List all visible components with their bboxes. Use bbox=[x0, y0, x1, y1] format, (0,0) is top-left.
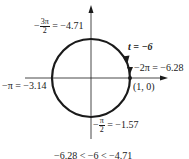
label-neg-pi-over-2: −π2 = −1.57 bbox=[93, 117, 138, 134]
denominator: 2 bbox=[40, 27, 50, 35]
label-neg-pi: −π = −3.14 bbox=[2, 81, 46, 91]
denominator: 2 bbox=[99, 126, 105, 134]
point-label: (1, 0) bbox=[133, 82, 155, 92]
label-neg-3pi-over-2: −3π2 = −4.71 bbox=[34, 18, 83, 35]
x-axis-arrow-icon bbox=[160, 76, 168, 81]
inequality: −6.28 < −6 < −4.71 bbox=[54, 151, 132, 159]
direction-arrow-icon bbox=[127, 67, 133, 74]
label-value: = −1.57 bbox=[107, 119, 138, 130]
y-axis-arrow-icon bbox=[89, 5, 94, 13]
label-neg-2pi: −2π = −6.28 bbox=[134, 63, 183, 73]
fraction: π2 bbox=[99, 117, 105, 134]
point-dot bbox=[128, 76, 132, 80]
label-value: = −4.71 bbox=[52, 20, 83, 31]
fraction: 3π2 bbox=[40, 18, 50, 35]
parameter-label: t = −6 bbox=[128, 42, 153, 52]
